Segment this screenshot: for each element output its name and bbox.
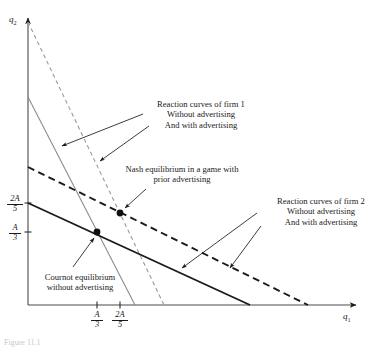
- annotation-cournot-line2: without advertising: [30, 282, 130, 292]
- annotation-cournot-equilibrium: Cournot equilibrium without advertising: [30, 272, 130, 293]
- annotation-firm1-line1: Reaction curves of firm 1: [146, 99, 256, 109]
- cournot-equilibrium-point: [94, 229, 101, 236]
- x-tick-label-2a-over-5: 2A 5: [112, 311, 128, 330]
- annotation-firm1-line3: And with advertising: [146, 120, 256, 130]
- annotation-nash-line1: Nash equilibrium in a game with: [116, 164, 248, 174]
- annotation-firm2: Reaction curves of firm 2 Without advert…: [265, 196, 377, 227]
- leader-firm1-with-advertising: [100, 126, 149, 161]
- figure-caption: Figure 11.1: [4, 338, 41, 347]
- leader-lines: [62, 114, 261, 268]
- y-tick-label-a-over-3: A 3: [9, 224, 21, 243]
- equilibrium-points: [94, 210, 124, 236]
- annotation-firm2-line1: Reaction curves of firm 2: [265, 196, 377, 206]
- x-axis-label: q1: [343, 311, 351, 323]
- annotation-firm1: Reaction curves of firm 1 Without advert…: [146, 99, 256, 130]
- annotation-firm2-line2: Without advertising: [265, 206, 377, 216]
- y-tick-label-2a-over-5: 2A 5: [7, 195, 23, 214]
- annotation-nash-line2: prior advertising: [116, 174, 248, 184]
- annotation-nash-equilibrium: Nash equilibrium in a game with prior ad…: [116, 164, 248, 185]
- annotation-firm1-line2: Without advertising: [146, 109, 256, 119]
- leader-nash-equilibrium: [125, 189, 146, 208]
- x-tick-label-a-over-3: A 3: [91, 311, 103, 330]
- annotation-firm2-line3: And with advertising: [265, 217, 377, 227]
- leader-firm2-with-advertising: [230, 226, 261, 268]
- axis-lines: [28, 18, 356, 305]
- leader-firm1-without-advertising: [62, 114, 143, 146]
- annotation-cournot-line1: Cournot equilibrium: [30, 272, 130, 282]
- nash-equilibrium-point: [117, 210, 124, 217]
- leader-cournot-equilibrium: [73, 238, 94, 267]
- leader-firm2-without-advertising: [182, 213, 257, 268]
- y-axis-label: q2: [9, 14, 17, 26]
